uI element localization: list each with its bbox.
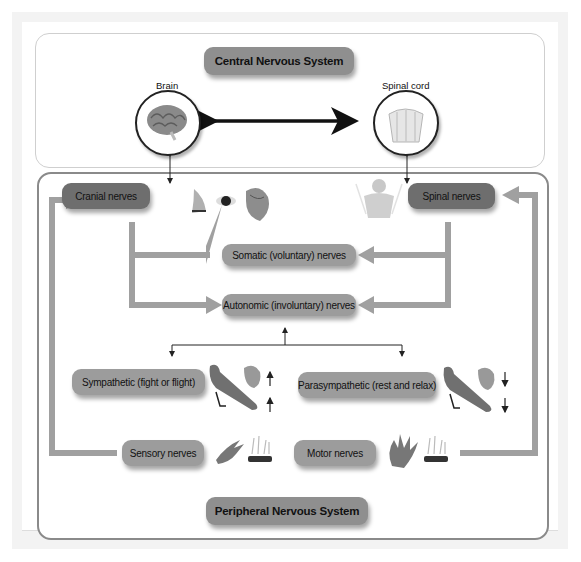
spinal-cord-circle bbox=[373, 90, 439, 156]
parasympathetic-box: Parasympathetic (rest and relax) bbox=[298, 372, 436, 398]
somatic-nerves-box: Somatic (voluntary) nerves bbox=[222, 244, 356, 266]
heart-icon bbox=[246, 188, 269, 221]
cranial-organ-icons bbox=[188, 183, 278, 223]
brain-circle bbox=[135, 90, 201, 156]
hand-icon bbox=[389, 434, 418, 468]
sensory-nerves-box: Sensory nerves bbox=[122, 440, 204, 466]
arm-heart-icons-sympathetic bbox=[208, 362, 266, 414]
heart-icon bbox=[244, 366, 260, 388]
hand-icon bbox=[216, 440, 244, 464]
spinal-cord-icon bbox=[375, 92, 437, 154]
autonomic-nerves-box: Autonomic (involuntary) nerves bbox=[222, 294, 356, 316]
eye-icon bbox=[216, 196, 236, 206]
heart-icon bbox=[478, 368, 494, 390]
peripheral-nervous-system-title: Peripheral Nervous System bbox=[206, 497, 368, 525]
hot-surface-icon bbox=[248, 436, 272, 462]
motor-hand-fire-icons bbox=[386, 430, 450, 470]
connector-arrows bbox=[0, 0, 581, 562]
motor-nerves-box: Motor nerves bbox=[294, 440, 376, 466]
brain-icon bbox=[137, 92, 199, 154]
sympathetic-box: Sympathetic (fight or flight) bbox=[72, 369, 205, 395]
hot-surface-icon bbox=[424, 436, 448, 462]
torso-icon bbox=[352, 174, 406, 222]
nose-icon bbox=[192, 189, 206, 213]
spinal-nerves-box: Spinal nerves bbox=[408, 183, 495, 209]
sensory-hand-fire-icons bbox=[214, 434, 276, 470]
central-nervous-system-title: Central Nervous System bbox=[204, 47, 354, 75]
cranial-nerves-box: Cranial nerves bbox=[62, 183, 150, 209]
arm-heart-icons-parasympathetic bbox=[442, 364, 500, 416]
